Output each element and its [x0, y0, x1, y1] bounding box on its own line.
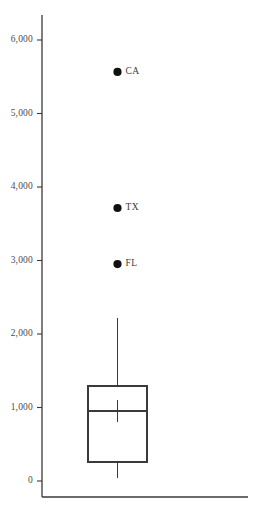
y-axis-tick-label: 1,000	[0, 402, 33, 412]
axes	[42, 15, 248, 497]
y-axis-tick-label: 0	[0, 475, 33, 485]
y-axis-tick-label: 2,000	[0, 328, 33, 338]
y-axis-tick-label: 5,000	[0, 108, 33, 118]
box-plot-chart: 6,0005,0004,0003,0002,0001,0000 CATXFL	[0, 0, 262, 513]
outlier-point-label: CA	[126, 66, 140, 76]
axis-ticks	[37, 40, 42, 481]
outlier-point-label: TX	[126, 202, 139, 212]
y-axis-tick-label: 3,000	[0, 255, 33, 265]
box-plot-glyph	[88, 318, 147, 478]
outlier-point-label: FL	[126, 258, 138, 268]
chart-canvas	[0, 0, 262, 513]
outlier-point	[113, 68, 121, 76]
y-axis-tick-label: 4,000	[0, 181, 33, 191]
interquartile-box	[88, 386, 147, 462]
outlier-point	[113, 260, 121, 268]
outlier-points	[113, 68, 121, 268]
outlier-point	[113, 204, 121, 212]
y-axis-tick-label: 6,000	[0, 34, 33, 44]
